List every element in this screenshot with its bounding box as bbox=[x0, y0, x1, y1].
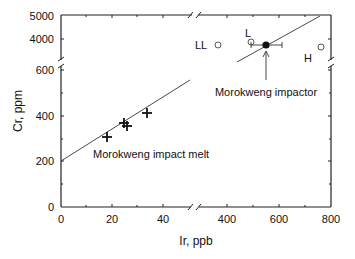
x-tick-400: 400 bbox=[218, 213, 236, 225]
y-axis-title: Cr, ppm bbox=[11, 90, 25, 132]
y-tick-5000: 5000 bbox=[30, 10, 54, 22]
ll-chondrite-point bbox=[215, 42, 221, 48]
y-tick-4000: 4000 bbox=[30, 33, 54, 45]
impact-melt-points bbox=[102, 108, 152, 142]
x-tick-0: 0 bbox=[58, 213, 64, 225]
x-axis-title: Ir, ppb bbox=[179, 234, 213, 248]
x-tick-40: 40 bbox=[157, 213, 169, 225]
y-tick-200: 200 bbox=[36, 155, 54, 167]
y-ticks bbox=[61, 39, 331, 184]
h-chondrite-point bbox=[318, 44, 324, 50]
y-tick-600: 600 bbox=[36, 64, 54, 76]
l-label: L bbox=[245, 27, 251, 39]
impactor-point bbox=[262, 41, 269, 48]
x-tick-800: 800 bbox=[322, 213, 340, 225]
x-tick-20: 20 bbox=[106, 213, 118, 225]
x-tick-600: 600 bbox=[270, 213, 288, 225]
impactor-arrow bbox=[263, 51, 269, 80]
impactor-label: Morokweng impactor bbox=[215, 86, 317, 98]
h-label: H bbox=[304, 52, 312, 64]
ll-label: LL bbox=[195, 39, 207, 51]
cr-vs-ir-chart: 5000 4000 600 400 200 0 0 20 40 400 600 … bbox=[0, 0, 355, 259]
plus-marker bbox=[102, 132, 112, 142]
y-tick-0: 0 bbox=[48, 201, 54, 213]
y-tick-400: 400 bbox=[36, 110, 54, 122]
impact-melt-label: Morokweng impact melt bbox=[93, 148, 209, 160]
